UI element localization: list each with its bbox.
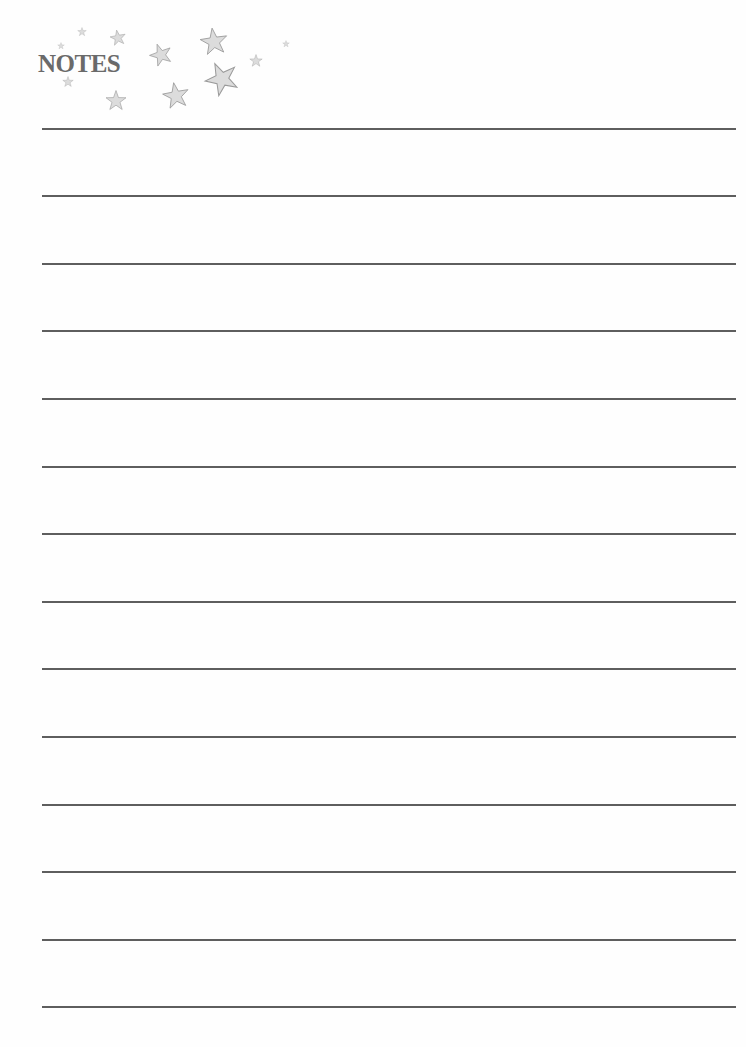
star-icon: [106, 91, 126, 110]
rule-line: [42, 601, 736, 603]
rule-line: [42, 128, 736, 130]
star-icon: [78, 28, 87, 36]
rule-line: [42, 668, 736, 670]
star-icon: [161, 80, 191, 109]
star-icon: [250, 55, 262, 67]
star-icon: [147, 40, 175, 67]
rule-line: [42, 1006, 736, 1008]
notes-page: NOTES: [0, 0, 746, 1047]
star-icon: [283, 41, 290, 47]
rule-line: [42, 466, 736, 468]
rule-line: [42, 263, 736, 265]
star-icon: [199, 26, 229, 55]
rule-line: [42, 330, 736, 332]
star-icon: [200, 57, 242, 99]
rule-line: [42, 939, 736, 941]
star-icon: [109, 29, 126, 46]
star-icon: [58, 43, 65, 49]
rule-line: [42, 871, 736, 873]
rule-line: [42, 533, 736, 535]
rule-line: [42, 398, 736, 400]
rule-line: [42, 195, 736, 197]
rule-line: [42, 736, 736, 738]
page-title: NOTES: [38, 50, 120, 78]
rule-line: [42, 804, 736, 806]
